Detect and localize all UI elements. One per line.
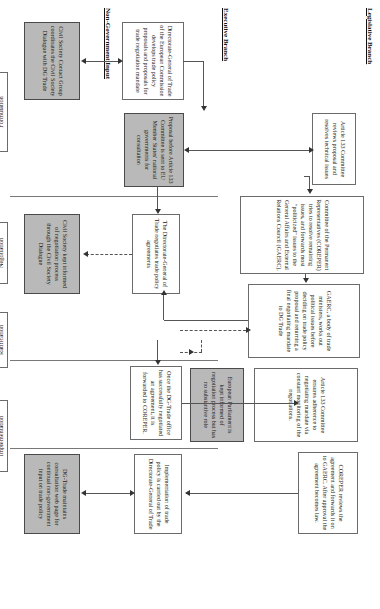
node-civil-society-contact-group[interactable]: Civil Society Contact Group coordinates …	[24, 22, 80, 100]
arrowhead-down-implementation	[185, 490, 190, 496]
connector-into-ratification	[157, 340, 158, 362]
arrowhead-down-webpage	[81, 490, 86, 496]
connector-art133-right	[309, 176, 310, 189]
node-coreper-resolves[interactable]: Committee of the Permanent Representativ…	[240, 196, 364, 274]
connector-into-negotiation	[157, 187, 158, 209]
arrowhead-up-dgtrade	[118, 58, 123, 64]
arrowhead-to-coreper	[307, 189, 313, 194]
node-gaerc-ministers[interactable]: GAERC, a body of trade ministers, works …	[248, 284, 360, 358]
lane-separator-ratification-implementation	[10, 448, 218, 449]
connector-webpage-implementation	[84, 493, 130, 494]
branch-header-nongovernment: Non-Government Input	[104, 8, 112, 79]
connector-dashed-to-civil-society	[86, 254, 132, 255]
arrowhead-up-coreper-reviews	[294, 400, 299, 406]
node-civil-society-informed[interactable]: Civil Society kept informed of negotiati…	[24, 214, 80, 294]
arrowhead-into-ratification	[155, 360, 161, 365]
node-article133-reviews[interactable]: Article 133 Committee reviews proposal a…	[312, 113, 356, 185]
connector-dgtrade-right	[203, 61, 204, 106]
branch-header-executive: Executive Branch	[222, 8, 230, 61]
arrowhead-dashed-down-civil-society	[83, 251, 88, 257]
stage-label-negotiation: Negotiation	[0, 222, 8, 284]
arrowhead-up-to-art133	[309, 147, 314, 153]
connector-forwards-up	[182, 403, 294, 404]
arrowhead-up-implementation	[130, 490, 135, 496]
arrowhead-to-gaerc	[303, 278, 309, 283]
connector-gaerc-left	[163, 294, 164, 320]
connector-dashed-to-art133-adherence	[180, 330, 246, 331]
node-coreper-reviews-agreement[interactable]: COREPER reviews the agreement and forwar…	[298, 452, 358, 534]
arrowhead-into-negotiation	[155, 209, 161, 214]
arrowhead-dashed-up-art133	[246, 327, 251, 333]
connector-ratification-to-implementation	[186, 493, 298, 494]
connector-gaerc-down	[164, 320, 248, 321]
stage-label-implementation: Implementation	[0, 400, 8, 472]
node-proposal-member-states[interactable]: Proposal before Article 133 Committee is…	[124, 113, 184, 187]
node-dg-trade-negotiates[interactable]: The Directorate-General of Trade negotia…	[132, 214, 180, 294]
node-dg-trade-forwards-agreement[interactable]: Once the DG-Trade office has successfull…	[130, 366, 182, 440]
flowchart-canvas: Legislative Branch Executive Branch Non-…	[0, 0, 380, 609]
node-dg-trade-webpage[interactable]: DG-Trade maintains consultation web page…	[24, 454, 80, 534]
arrowhead-to-article133	[201, 106, 207, 111]
connector-art133-to-proposal	[186, 150, 310, 151]
node-european-parliament-informed[interactable]: European Parliament is kept informed of …	[190, 368, 244, 442]
arrowhead-dashed-up-ep	[189, 349, 194, 355]
node-dg-trade-develops[interactable]: Directorate-General of Trade of the Euro…	[122, 22, 184, 100]
diagram-rotation-wrapper: Legislative Branch Executive Branch Non-…	[0, 0, 380, 609]
node-article133-adherence[interactable]: Article 133 Committee ensures adherence …	[254, 368, 358, 442]
stage-label-formulation: Formulation	[0, 72, 8, 152]
lane-separator-negotiation-ratification	[10, 360, 218, 361]
stage-label-ratification: Ratification	[0, 312, 8, 368]
arrowhead-down-civilsociety	[81, 58, 86, 64]
arrowhead-to-dgtrade-negotiates	[161, 290, 167, 295]
node-implementation-dg-trade[interactable]: Implementation of trade policy is carrie…	[134, 454, 182, 534]
connector-civilsociety-dgtrade	[84, 61, 118, 62]
connector-dashed-to-ep-h	[201, 340, 202, 352]
lane-separator-formulation-negotiation	[10, 196, 218, 197]
connector-dgtrade-up	[183, 61, 204, 62]
branch-header-legislative: Legislative Branch	[366, 8, 374, 64]
arrowhead-down-to-proposal	[184, 147, 189, 153]
